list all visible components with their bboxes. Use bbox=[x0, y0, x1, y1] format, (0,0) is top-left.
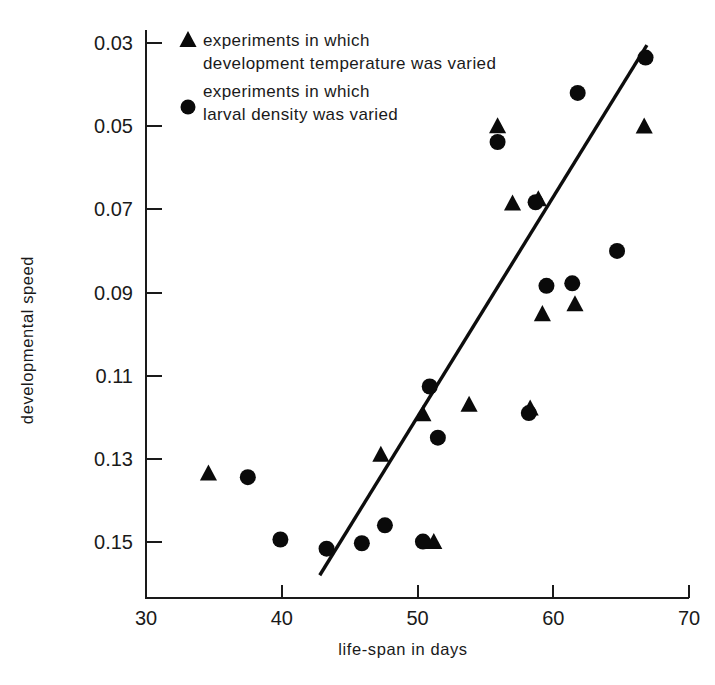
x-axis-title: life-span in days bbox=[338, 640, 467, 658]
data-point-circle-2 bbox=[319, 541, 335, 557]
x-tick-label-50: 50 bbox=[406, 607, 428, 629]
scatter-plot-figure: 0.030.050.070.090.110.130.15 3040506070 … bbox=[0, 0, 715, 685]
y-tick-label-0.11: 0.11 bbox=[96, 365, 133, 387]
y-tick-label-0.15: 0.15 bbox=[94, 531, 133, 553]
data-point-circle-8 bbox=[490, 134, 506, 150]
data-point-circle-10 bbox=[528, 194, 544, 210]
legend-circle-icon bbox=[181, 100, 196, 115]
x-tick-label-40: 40 bbox=[271, 607, 293, 629]
x-tick-label-60: 60 bbox=[542, 607, 564, 629]
y-tick-label-0.13: 0.13 bbox=[94, 448, 133, 470]
y-tick-label-0.03: 0.03 bbox=[94, 32, 133, 54]
data-point-circle-15 bbox=[638, 50, 654, 66]
data-point-circle-14 bbox=[609, 243, 625, 259]
data-point-circle-9 bbox=[521, 405, 537, 421]
data-point-circle-13 bbox=[570, 85, 586, 101]
data-point-circle-1 bbox=[272, 532, 288, 548]
data-point-circle-5 bbox=[415, 534, 431, 550]
x-tick-label-30: 30 bbox=[135, 607, 157, 629]
data-point-circle-12 bbox=[564, 275, 580, 291]
legend-entry-1-line-2: larval density was varied bbox=[203, 105, 398, 124]
chart-canvas: 0.030.050.070.090.110.130.15 3040506070 … bbox=[0, 0, 715, 685]
y-tick-label-0.05: 0.05 bbox=[94, 115, 133, 137]
data-point-circle-6 bbox=[430, 430, 446, 446]
data-point-circle-0 bbox=[240, 469, 256, 485]
legend-entry-0-line-2: development temperature was varied bbox=[203, 54, 496, 73]
y-tick-label-0.09: 0.09 bbox=[94, 282, 133, 304]
data-point-circle-4 bbox=[377, 517, 393, 533]
legend-entry-1-line-1: experiments in which bbox=[203, 82, 370, 101]
legend-entry-0-line-1: experiments in which bbox=[203, 31, 370, 50]
y-axis-title: developmental speed bbox=[18, 256, 36, 424]
data-point-circle-7 bbox=[422, 378, 438, 394]
y-tick-label-0.07: 0.07 bbox=[94, 198, 133, 220]
data-point-circle-3 bbox=[354, 535, 370, 551]
chart-background bbox=[0, 0, 715, 685]
x-tick-label-70: 70 bbox=[678, 607, 700, 629]
data-point-circle-11 bbox=[538, 278, 554, 294]
